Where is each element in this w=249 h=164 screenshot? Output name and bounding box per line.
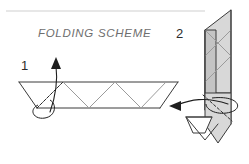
folding-scheme-figure: FOLDING SCHEME 1 2 [0,0,249,164]
folding-diagram-canvas: FOLDING SCHEME 1 2 [0,0,249,164]
flat-crease-pattern [19,57,178,118]
model-white-wedge [186,117,212,133]
step-label-2: 2 [176,26,183,41]
page-title: FOLDING SCHEME [38,27,151,39]
step-one-arrow-head [51,57,61,69]
step-label-1: 1 [21,58,28,73]
pattern-left-slant [19,82,37,108]
step-two-arrow-head [169,101,181,111]
step-one-arrow-shaft [50,66,57,112]
